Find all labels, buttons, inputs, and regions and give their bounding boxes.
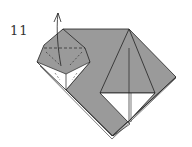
origami-diagram: [0, 0, 192, 147]
